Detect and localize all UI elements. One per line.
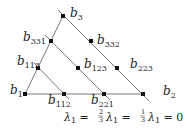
level-lines <box>34 10 149 101</box>
label-b332: b332 <box>97 33 120 49</box>
point-b3 <box>61 14 65 18</box>
label-b2: b2 <box>163 84 176 100</box>
level-frac-2-3-den: 3 <box>99 116 103 124</box>
triangle-diagram: b3 b331 b332 b113 b123 b223 b1 b112 b221… <box>0 0 187 130</box>
point-b123 <box>76 66 80 70</box>
point-b1 <box>23 92 27 96</box>
triangle-edges <box>25 16 143 94</box>
control-points <box>23 14 145 96</box>
level-frac-1-3-den: 3 <box>141 116 145 124</box>
label-b331: b331 <box>23 30 46 46</box>
point-labels: b3 b331 b332 b113 b123 b223 b1 b112 b221… <box>10 6 176 109</box>
edge-b1-b3 <box>25 16 63 94</box>
point-b2 <box>141 92 145 96</box>
point-b112 <box>62 92 66 96</box>
label-b112: b112 <box>48 93 71 109</box>
point-b223 <box>115 66 119 70</box>
point-b331 <box>49 39 53 43</box>
level-line-0 <box>58 10 149 101</box>
label-b123: b123 <box>84 57 107 73</box>
label-b3: b3 <box>70 6 83 22</box>
level-label-1-3: λ1 = <box>105 111 131 125</box>
level-frac-2-3-num: 2 <box>99 108 103 116</box>
level-labels: λ1 = 2 3 λ1 = 1 3 λ1 = 0 <box>63 108 183 125</box>
level-label-2-3: λ1 = <box>63 111 89 125</box>
level-frac-1-3-num: 1 <box>141 108 145 116</box>
label-b1: b1 <box>10 83 23 99</box>
level-label-0: λ1 = 0 <box>147 111 183 125</box>
point-b332 <box>89 39 93 43</box>
point-b221 <box>102 92 106 96</box>
label-b113: b113 <box>17 54 40 70</box>
label-b223: b223 <box>130 57 153 73</box>
